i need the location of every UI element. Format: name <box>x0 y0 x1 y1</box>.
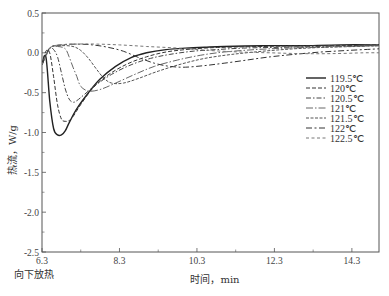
legend-item: 122.5℃ <box>306 133 364 144</box>
dsc-heat-flow-chart: 0.50.0-0.5-1.0-1.5-2.0-2.5 6.38.310.312.… <box>0 0 389 296</box>
y-axis-label: 热流，W/g <box>6 124 18 175</box>
y-tick-label: -2.0 <box>24 208 39 218</box>
x-tick-label: 12.3 <box>266 256 283 266</box>
y-tick-label: -0.5 <box>24 88 39 98</box>
series-line <box>42 45 379 122</box>
y-tick-label: -1.5 <box>24 168 39 178</box>
x-tick-label: 6.3 <box>36 256 48 266</box>
x-tick-label: 10.3 <box>189 256 206 266</box>
series-line <box>42 45 379 136</box>
y-tick-label: -1.0 <box>24 128 39 138</box>
legend-label: 122.5℃ <box>330 133 364 144</box>
x-tick-label: 8.3 <box>114 256 126 266</box>
x-axis-ticks: 6.38.310.312.314.3 <box>36 248 360 266</box>
x-axis-label: 时间，min <box>190 273 240 285</box>
y-tick-label: 0.5 <box>27 9 39 19</box>
y-tick-label: 0.0 <box>27 48 39 58</box>
legend: 119.5℃120℃120.5℃121℃121.5℃122℃122.5℃ <box>306 73 364 144</box>
series-layer <box>42 44 379 136</box>
y-axis-ticks: 0.50.0-0.5-1.0-1.5-2.0-2.5 <box>24 9 46 258</box>
series-line <box>42 46 379 92</box>
exotherm-direction-note: 向下放热 <box>14 268 54 280</box>
x-tick-label: 14.3 <box>344 256 361 266</box>
plot-frame <box>42 13 379 252</box>
